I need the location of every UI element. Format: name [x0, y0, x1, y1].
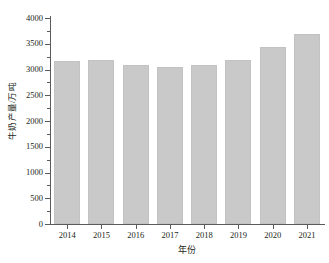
- y-axis-tick-label: 3000: [0, 65, 43, 74]
- y-axis-tick-label: 1000: [0, 168, 43, 177]
- y-axis-tick: [45, 224, 50, 225]
- x-axis-tick-label: 2021: [287, 231, 327, 240]
- y-axis-tick-label: 2000: [0, 117, 43, 126]
- y-axis-tick-label: 2500: [0, 91, 43, 100]
- y-axis-tick-label: 500: [0, 194, 43, 203]
- y-axis-tick-label: 1500: [0, 142, 43, 151]
- plot-area: [50, 18, 324, 224]
- bar[interactable]: [191, 65, 217, 224]
- bar[interactable]: [157, 67, 183, 224]
- x-axis-tick: [67, 225, 68, 229]
- y-axis-tick-label: 3500: [0, 39, 43, 48]
- bar[interactable]: [294, 34, 320, 224]
- x-axis-tick: [101, 225, 102, 229]
- bar-chart-figure: 牛奶产量/万吨 05001000150020002500300035004000…: [0, 0, 329, 263]
- x-axis-tick: [170, 225, 171, 229]
- x-axis-tick: [238, 225, 239, 229]
- x-axis-line: [50, 224, 325, 225]
- x-axis-title: 年份: [48, 243, 326, 256]
- bar[interactable]: [225, 60, 251, 224]
- y-axis-tick-label: 4000: [0, 14, 43, 23]
- x-axis-tick: [273, 225, 274, 229]
- x-axis-tick: [136, 225, 137, 229]
- bar[interactable]: [123, 65, 149, 224]
- bar[interactable]: [260, 47, 286, 224]
- bar[interactable]: [88, 60, 114, 224]
- x-axis-tick: [307, 225, 308, 229]
- y-axis-tick-label: 0: [0, 220, 43, 229]
- x-axis-tick: [204, 225, 205, 229]
- bar[interactable]: [54, 61, 80, 224]
